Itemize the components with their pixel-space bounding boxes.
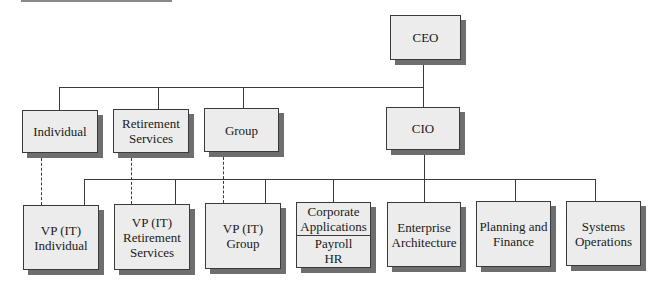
header-rule [21, 0, 172, 2]
node-label: Individual [33, 124, 86, 139]
connector-to-group [243, 87, 244, 108]
node-label: Retirement [122, 116, 180, 131]
connector-to-cio [423, 87, 424, 107]
payroll-hr-section: Payroll HR [297, 235, 370, 268]
node-vp-it-group: VP (IT) Group [205, 203, 281, 269]
node-label: Services [130, 245, 174, 260]
connector-to-individual [59, 87, 60, 110]
node-label: Enterprise [397, 220, 450, 235]
node-label: VP (IT) [223, 221, 263, 236]
node-group: Group [204, 108, 279, 152]
corporate-applications-section: Corporate Applications [297, 203, 370, 235]
node-label: Finance [493, 234, 534, 249]
node-label: Payroll [315, 236, 353, 251]
node-corporate-applications: Corporate Applications Payroll HR [296, 202, 371, 268]
connector-to-vp-retirement [175, 179, 176, 204]
connector-to-vp-group [265, 179, 266, 203]
dotted-line-group [223, 157, 224, 203]
node-ceo: CEO [390, 15, 461, 60]
node-label: Planning and [479, 219, 547, 234]
node-individual: Individual [22, 110, 98, 153]
node-label: Group [226, 236, 259, 251]
connector-to-planning-finance [515, 179, 516, 201]
node-vp-it-individual: VP (IT) Individual [23, 205, 99, 270]
node-label: HR [324, 251, 342, 266]
dotted-line-individual [41, 158, 42, 205]
node-label: CIO [412, 121, 434, 136]
connector-cio-down [424, 150, 425, 180]
connector-to-vp-individual [84, 179, 85, 205]
node-label: CEO [413, 30, 439, 45]
connector-to-retirement [158, 87, 159, 109]
node-enterprise-architecture: Enterprise Architecture [387, 202, 461, 267]
connector-to-enterprise-arch [424, 179, 425, 202]
node-systems-operations: Systems Operations [566, 201, 641, 266]
node-planning-and-finance: Planning and Finance [476, 201, 551, 267]
node-vp-it-retirement-services: VP (IT) Retirement Services [114, 204, 190, 270]
node-label: Systems [582, 219, 625, 234]
node-label: Retirement [123, 230, 181, 245]
node-label: VP (IT) [132, 215, 172, 230]
connector-level2-bus [59, 87, 424, 88]
node-label: VP (IT) [41, 223, 81, 238]
node-label: Group [225, 123, 258, 138]
node-label: Services [129, 131, 173, 146]
connector-level3-bus [84, 179, 596, 180]
node-label: Individual [34, 238, 87, 253]
node-label: Operations [575, 234, 632, 249]
node-label: Applications [300, 219, 366, 234]
connector-ceo-down [423, 60, 424, 88]
connector-to-corporate-apps [333, 179, 334, 202]
dotted-line-retirement [131, 158, 132, 204]
node-label: Corporate [308, 204, 360, 219]
node-label: Architecture [392, 235, 457, 250]
node-cio: CIO [386, 107, 460, 150]
node-retirement-services: Retirement Services [113, 109, 189, 153]
connector-to-systems-ops [595, 179, 596, 201]
